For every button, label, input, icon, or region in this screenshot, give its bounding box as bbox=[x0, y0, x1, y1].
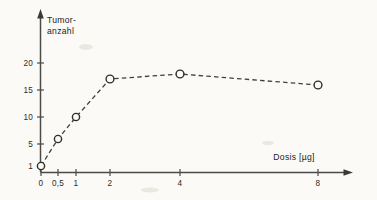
y-tick-label-15: 15 bbox=[23, 86, 33, 95]
scan-speck bbox=[262, 141, 274, 145]
x-tick-label-2: 2 bbox=[108, 179, 113, 188]
chart-figure: 20 15 10 5 1 Tumor- anzahl 0 0,5 1 2 4 8… bbox=[0, 0, 377, 200]
y-tick-label-10: 10 bbox=[23, 113, 33, 122]
x-tick-label-0-5: 0,5 bbox=[52, 179, 64, 188]
data-point-marker bbox=[54, 135, 61, 142]
scan-speck bbox=[79, 44, 93, 50]
data-point-marker bbox=[37, 162, 44, 169]
data-point-marker bbox=[72, 113, 79, 120]
x-tick-label-1: 1 bbox=[74, 179, 79, 188]
x-tick-label-0: 0 bbox=[39, 179, 44, 188]
data-point-marker bbox=[314, 81, 322, 89]
scan-speck bbox=[141, 188, 159, 193]
y-tick-label-5: 5 bbox=[28, 140, 33, 149]
x-axis-arrow-icon bbox=[344, 169, 354, 176]
y-axis-title-line1: Tumor- bbox=[47, 15, 76, 25]
x-axis-title: Dosis [µg] bbox=[273, 152, 314, 162]
y-axis-arrow-icon bbox=[37, 9, 44, 19]
y-tick-label-20: 20 bbox=[23, 59, 33, 68]
x-tick-label-8: 8 bbox=[316, 179, 321, 188]
x-tick-label-4: 4 bbox=[178, 179, 183, 188]
y-axis-title-line2: anzahl bbox=[47, 26, 74, 36]
dose-response-line-chart: 20 15 10 5 1 Tumor- anzahl 0 0,5 1 2 4 8… bbox=[0, 0, 377, 200]
y-tick-label-1: 1 bbox=[28, 162, 33, 171]
data-point-marker bbox=[176, 70, 184, 78]
data-point-marker bbox=[106, 75, 114, 83]
